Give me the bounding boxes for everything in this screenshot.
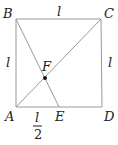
side-label-left: l: [6, 55, 10, 70]
label-A: A: [4, 109, 14, 124]
geometry-diagram: B C A E D F l l l l 2: [0, 0, 118, 145]
point-F-dot: [43, 76, 47, 80]
label-F: F: [41, 59, 52, 74]
label-E: E: [54, 109, 65, 124]
segment-BE: [16, 19, 59, 107]
side-label-right: l: [108, 55, 112, 70]
label-C: C: [104, 6, 114, 21]
label-B: B: [2, 6, 13, 21]
label-D: D: [103, 109, 115, 124]
segment-AC: [16, 19, 101, 107]
side-label-bottom-denominator: 2: [34, 127, 42, 142]
segment-CD: [101, 19, 102, 107]
side-label-bottom-numerator: l: [35, 110, 39, 125]
side-label-top: l: [57, 4, 61, 19]
